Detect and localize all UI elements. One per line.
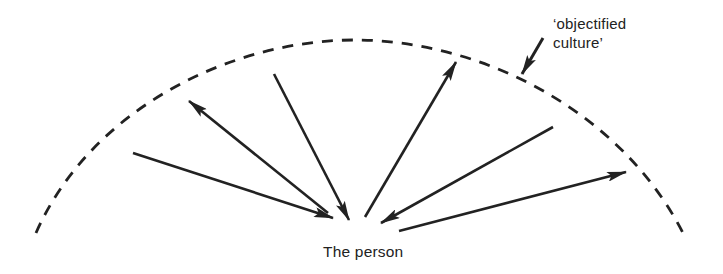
objectified-culture-label-line1: ‘objectified bbox=[553, 14, 626, 33]
arrow-outward bbox=[189, 101, 328, 213]
arrow-inward bbox=[133, 153, 333, 218]
arrows-group bbox=[133, 62, 626, 231]
the-person-label: The person bbox=[323, 242, 403, 261]
objectified-culture-label-line2: culture’ bbox=[553, 33, 626, 52]
objectified-culture-boundary-arc bbox=[36, 40, 683, 233]
objectified-culture-label: ‘objectified culture’ bbox=[553, 14, 626, 52]
arrow-outward bbox=[365, 62, 456, 217]
culture-pointer-arrow bbox=[522, 38, 543, 74]
arrow-inward bbox=[381, 127, 553, 223]
arrow-outward bbox=[399, 172, 626, 231]
